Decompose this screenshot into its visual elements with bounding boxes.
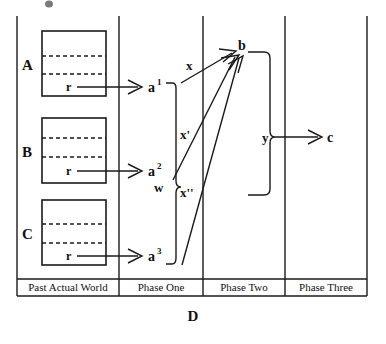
node-b-label: b <box>238 38 246 53</box>
node-a1-superscript: 1 <box>157 77 162 87</box>
column-footer-labels: Past Actual World Phase One Phase Two Ph… <box>28 281 353 293</box>
node-a3-superscript: 3 <box>157 246 162 256</box>
brace-y: y <box>248 52 275 195</box>
diagram-caption: D <box>188 308 199 324</box>
diagram-root: A r B r C r a 1 <box>0 0 386 344</box>
node-a3-base: a <box>148 249 155 264</box>
diagram-canvas: A r B r C r a 1 <box>0 0 386 344</box>
node-c-label: c <box>327 130 333 145</box>
edge-x-prime-a2-to-b: x' <box>173 55 239 180</box>
edge-b-to-c: c <box>275 130 333 145</box>
world-box-c-inner-label: r <box>66 249 72 263</box>
node-a1-base: a <box>148 80 155 95</box>
edge-x-prime-label: x' <box>180 127 190 142</box>
world-box-c: C r <box>22 200 142 265</box>
brace-y-label: y <box>262 130 269 145</box>
edge-x-double-prime-label: x'' <box>180 185 194 200</box>
world-box-a: A r <box>22 31 142 96</box>
column-label-phase-two: Phase Two <box>220 281 268 293</box>
edge-x-a1-to-b: x <box>181 49 236 83</box>
world-box-a-label: A <box>22 57 33 73</box>
world-box-b: B r <box>22 118 142 183</box>
phase-one-node-a3: a 3 <box>148 246 162 264</box>
edge-x-label: x <box>186 58 193 73</box>
column-label-phase-three: Phase Three <box>299 281 353 293</box>
brace-w-label: w <box>154 180 164 195</box>
phase-one-node-a2: a 2 <box>148 161 162 179</box>
world-box-b-label: B <box>22 144 32 160</box>
edge-x-double-prime-a3-to-b: x'' <box>180 56 243 265</box>
world-box-b-inner-label: r <box>66 164 72 178</box>
node-a2-superscript: 2 <box>157 161 162 171</box>
world-box-a-inner-label: r <box>66 80 72 94</box>
column-label-phase-one: Phase One <box>138 281 185 293</box>
column-label-past-actual-world: Past Actual World <box>28 281 108 293</box>
world-box-c-label: C <box>22 226 33 242</box>
node-a2-base: a <box>148 164 155 179</box>
phase-one-node-a1: a 1 <box>148 77 162 95</box>
scan-artifact-speck <box>45 1 53 8</box>
